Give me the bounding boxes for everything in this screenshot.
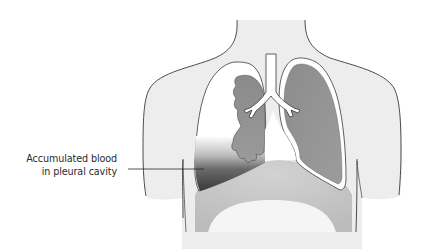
annotation-label-line2: in pleural cavity <box>42 166 117 178</box>
hemothorax-diagram <box>0 0 422 249</box>
annotation-label-line1: Accumulated blood <box>26 153 117 165</box>
